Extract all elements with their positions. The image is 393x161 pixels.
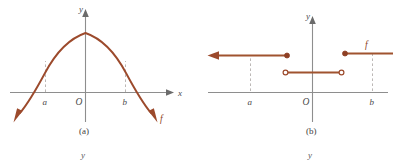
panel-b: y O a b f (b) y (208, 11, 393, 160)
tick-label-a: a (43, 97, 48, 107)
middle-segment-open-endpoint-right (339, 70, 344, 75)
panel-a: x y O a b f (a) y (10, 4, 182, 160)
figure-root: x y O a b f (a) y (0, 0, 393, 161)
curve-label-f: f (160, 114, 164, 124)
panel-a-caption: (a) (79, 126, 89, 136)
origin-label: O (76, 97, 83, 107)
panel-b-curve-label-f: f (365, 40, 369, 50)
middle-segment (283, 70, 344, 75)
panel-b-caption: (b) (306, 126, 317, 136)
panel-b-tick-label-a: a (248, 97, 253, 107)
panel-a-y-axis (82, 9, 89, 122)
x-axis-arrowhead (166, 89, 174, 96)
right-segment-closed-endpoint (343, 51, 348, 56)
figure-svg: x y O a b f (a) y (0, 0, 393, 161)
curve-arrowhead-right (148, 108, 157, 122)
panel-b-y-axis (309, 16, 316, 122)
left-ray-closed-endpoint (285, 53, 290, 58)
middle-segment-open-endpoint-left (283, 70, 288, 75)
right-segment (343, 51, 393, 56)
x-axis-label: x (177, 88, 182, 98)
left-ray-arrowhead (208, 51, 220, 60)
panel-b-tick-label-b: b (370, 97, 375, 107)
y-axis-arrowhead (82, 9, 89, 17)
curve-arrowhead-left (14, 108, 23, 122)
panel-b-origin-label: O (303, 97, 310, 107)
y-axis-label: y (78, 4, 83, 14)
tick-label-b: b (123, 97, 128, 107)
next-figure-y-label-right: y (307, 150, 312, 160)
panel-b-y-axis-arrowhead (309, 16, 316, 24)
next-figure-y-label-left: y (80, 150, 85, 160)
left-ray (208, 51, 290, 60)
panel-b-y-axis-label: y (305, 11, 310, 21)
